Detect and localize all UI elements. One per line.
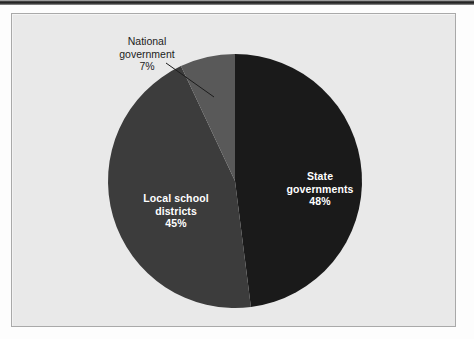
figure-screenshot: State governments 48% Local school distr… (0, 0, 474, 339)
pie-label-state-governments-line2: governments (268, 183, 372, 196)
pie-label-state-governments-value: 48% (268, 195, 372, 208)
page-top-rule (0, 0, 474, 5)
pie-label-state-governments-line1: State (268, 170, 372, 183)
pie-label-local-school-districts-line2: districts (118, 205, 234, 218)
pie-label-national-government-line1: National (101, 35, 193, 48)
pie-label-national-government-value: 7% (101, 60, 193, 73)
chart-panel: State governments 48% Local school distr… (11, 13, 456, 327)
pie-label-national-government-line2: government (101, 48, 193, 61)
pie-label-local-school-districts: Local school districts 45% (118, 192, 234, 230)
pie-label-national-government: National government 7% (101, 35, 193, 73)
pie-label-state-governments: State governments 48% (268, 170, 372, 208)
pie-label-local-school-districts-value: 45% (118, 217, 234, 230)
pie-label-local-school-districts-line1: Local school (118, 192, 234, 205)
